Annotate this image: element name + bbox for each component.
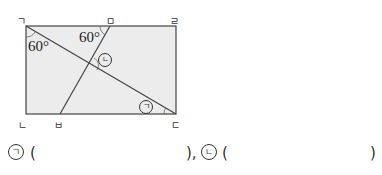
answer-mark-second: ㄴ (201, 144, 217, 160)
answer-second-blank[interactable] (236, 144, 366, 162)
unknown-angle-mark-second: ㄴ (98, 53, 112, 67)
vertex-label-top-right: ㄹ (170, 13, 179, 28)
vertex-label-top-left: ㄱ (17, 13, 26, 28)
angle-label-top-left: 60° (28, 38, 49, 55)
answer-line: ㄱ ( ), ㄴ ( ) (8, 144, 378, 166)
answer-first-blank[interactable] (44, 144, 184, 162)
vertex-label-bottom-left: ㄴ (18, 117, 27, 132)
vertex-label-bottom-mid: ㅂ (54, 117, 63, 132)
angle-label-top-mid: 60° (79, 29, 100, 46)
answer-second-close-paren: ) (370, 144, 376, 162)
answer-first-close-paren: ), (186, 144, 197, 162)
vertex-label-top-mid: ㅁ (106, 13, 115, 28)
answer-mark-first: ㄱ (8, 144, 24, 160)
vertex-label-bottom-right: ㄷ (171, 117, 180, 132)
answer-second-open-paren: ( (222, 144, 228, 162)
unknown-angle-mark-first: ㄱ (139, 100, 153, 114)
answer-first-open-paren: ( (30, 144, 36, 162)
